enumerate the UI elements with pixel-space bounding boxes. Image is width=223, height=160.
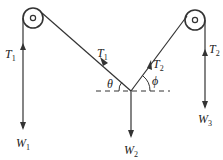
w1-down-arrow (20, 122, 26, 130)
t2-up-arrow (202, 49, 208, 56)
right-diagonal-rope (131, 16, 187, 91)
label-t2-right: T2 (209, 42, 220, 58)
label-t1-diag: T1 (97, 46, 108, 62)
label-w1: W1 (16, 136, 30, 152)
t1-up-arrow (20, 43, 26, 50)
phi-arc (143, 76, 150, 91)
left-diagonal-rope (42, 13, 131, 91)
label-phi: ϕ (152, 74, 158, 88)
label-w3: W3 (198, 112, 212, 128)
label-w2: W2 (124, 143, 138, 159)
pulley-diagram: T1 T1 T2 T2 W1 W2 W3 θ ϕ (0, 0, 223, 160)
label-theta: θ (107, 77, 113, 91)
label-t1-left: T1 (5, 47, 16, 63)
right-pulley (185, 10, 205, 30)
theta-arc (119, 82, 122, 91)
label-t2-diag: T2 (153, 57, 164, 73)
w3-down-arrow (202, 101, 208, 109)
left-pulley (23, 8, 43, 28)
w2-down-arrow (128, 130, 134, 138)
